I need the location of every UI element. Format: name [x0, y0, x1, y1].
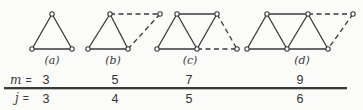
- figure-b-label: (b): [105, 54, 121, 67]
- truss-figure: (a) (b) (c) (d) m= 3 5 7 9 j= 3 4 5 6: [0, 0, 363, 110]
- truss-member: [110, 14, 128, 49]
- added-member-dashed: [128, 14, 160, 49]
- truss-member: [308, 14, 328, 49]
- joints-count-b: 4: [112, 93, 119, 105]
- joint-node-icon: [70, 47, 74, 51]
- truss-member: [267, 14, 287, 49]
- truss-figure-c: [155, 12, 239, 51]
- joint-node-icon: [351, 12, 355, 16]
- j-variable: j: [15, 91, 19, 105]
- joint-node-icon: [108, 12, 112, 16]
- truss-member: [157, 14, 177, 49]
- joint-node-icon: [265, 12, 269, 16]
- truss-diagrams: (a) (b) (c) (d): [0, 0, 363, 110]
- joint-node-icon: [50, 12, 54, 16]
- joint-node-icon: [306, 12, 310, 16]
- added-member-dashed: [328, 14, 353, 49]
- members-row-label: m=: [10, 74, 32, 86]
- truss-member: [197, 14, 217, 49]
- truss-member: [32, 14, 52, 49]
- figure-c-label: (c): [183, 54, 198, 67]
- joint-node-icon: [235, 47, 239, 51]
- joint-node-icon: [285, 47, 289, 51]
- equals-sign: =: [25, 74, 31, 86]
- truss-figure-b: [86, 12, 162, 51]
- truss-figure-d: [245, 12, 355, 51]
- added-member-dashed: [217, 14, 237, 49]
- joint-node-icon: [245, 47, 249, 51]
- m-variable: m: [10, 73, 21, 87]
- joint-node-icon: [195, 47, 199, 51]
- truss-figure-a: [30, 12, 74, 51]
- joints-count-c: 5: [186, 93, 193, 105]
- joint-node-icon: [158, 12, 162, 16]
- truss-member: [52, 14, 72, 49]
- members-count-c: 7: [186, 74, 193, 86]
- joint-node-icon: [155, 47, 159, 51]
- members-count-d: 9: [297, 74, 304, 86]
- members-count-a: 3: [43, 74, 50, 86]
- truss-member: [247, 14, 267, 49]
- joint-node-icon: [30, 47, 34, 51]
- members-count-b: 5: [112, 74, 119, 86]
- truss-member: [287, 14, 308, 49]
- joint-node-icon: [175, 12, 179, 16]
- figure-d-label: (d): [294, 54, 310, 67]
- joints-row-label: j=: [15, 92, 29, 104]
- truss-member: [177, 14, 197, 49]
- joints-count-a: 3: [43, 93, 50, 105]
- joint-node-icon: [86, 47, 90, 51]
- joint-node-icon: [126, 47, 130, 51]
- truss-member: [88, 14, 110, 49]
- joints-count-d: 6: [297, 93, 304, 105]
- figure-a-label: (a): [44, 54, 59, 67]
- table-divider-rule: [4, 87, 347, 90]
- joint-node-icon: [215, 12, 219, 16]
- joint-node-icon: [326, 47, 330, 51]
- equals-sign: =: [23, 92, 29, 104]
